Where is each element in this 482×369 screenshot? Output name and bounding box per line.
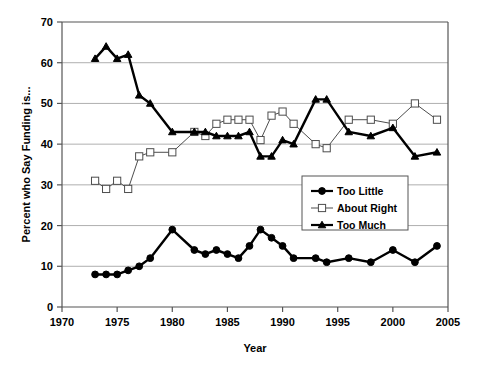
data-point-marker xyxy=(319,188,326,195)
y-tick-label: 30 xyxy=(41,179,53,191)
data-point-marker xyxy=(367,259,374,266)
y-tick-label: 20 xyxy=(41,220,53,232)
data-point-marker xyxy=(125,185,132,192)
data-point-marker xyxy=(323,145,330,152)
data-point-marker xyxy=(290,255,297,262)
y-axis-label: Percent who Say Funding is... xyxy=(20,87,32,243)
data-point-marker xyxy=(169,226,176,233)
x-tick-label: 1980 xyxy=(160,316,184,328)
data-point-marker xyxy=(235,116,242,123)
x-tick-label: 1975 xyxy=(105,316,129,328)
data-point-marker xyxy=(147,255,154,262)
data-point-marker xyxy=(246,116,253,123)
legend: Too LittleAbout RightToo Much xyxy=(302,176,408,231)
data-point-marker xyxy=(312,141,319,148)
y-tick-label: 40 xyxy=(41,138,53,150)
data-point-marker xyxy=(312,255,319,262)
data-point-marker xyxy=(213,120,220,127)
y-tick-label: 60 xyxy=(41,57,53,69)
data-point-marker xyxy=(103,185,110,192)
x-axis-label: Year xyxy=(243,342,267,354)
data-point-marker xyxy=(389,247,396,254)
data-point-marker xyxy=(147,149,154,156)
data-point-marker xyxy=(224,116,231,123)
x-tick-label: 1970 xyxy=(50,316,74,328)
y-tick-label: 0 xyxy=(47,301,53,313)
data-point-marker xyxy=(114,177,121,184)
legend-label: About Right xyxy=(337,202,398,214)
data-point-marker xyxy=(202,251,209,258)
legend-label: Too Little xyxy=(337,185,384,197)
data-point-marker xyxy=(246,243,253,250)
y-tick-label: 10 xyxy=(41,260,53,272)
y-tick-label: 50 xyxy=(41,97,53,109)
y-tick-label: 70 xyxy=(41,16,53,28)
data-point-marker xyxy=(114,271,121,278)
data-point-marker xyxy=(412,259,419,266)
x-tick-label: 1990 xyxy=(270,316,294,328)
data-point-marker xyxy=(257,136,264,143)
data-point-marker xyxy=(345,255,352,262)
data-point-marker xyxy=(169,149,176,156)
data-point-marker xyxy=(433,116,440,123)
data-point-marker xyxy=(279,243,286,250)
data-point-marker xyxy=(345,116,352,123)
x-tick-label: 2000 xyxy=(381,316,405,328)
data-point-marker xyxy=(224,251,231,258)
data-point-marker xyxy=(125,267,132,274)
data-point-marker xyxy=(191,247,198,254)
data-point-marker xyxy=(318,204,325,211)
data-point-marker xyxy=(279,108,286,115)
data-point-marker xyxy=(434,243,441,250)
data-point-marker xyxy=(235,255,242,262)
data-point-marker xyxy=(323,259,330,266)
data-point-marker xyxy=(290,120,297,127)
data-point-marker xyxy=(92,271,99,278)
legend-label: Too Much xyxy=(337,219,386,231)
data-point-marker xyxy=(257,226,264,233)
data-point-marker xyxy=(367,116,374,123)
funding-opinion-line-chart: 010203040506070 197019751980198519901995… xyxy=(0,0,482,369)
data-point-marker xyxy=(103,271,110,278)
data-point-marker xyxy=(268,112,275,119)
data-point-marker xyxy=(411,100,418,107)
data-point-marker xyxy=(136,263,143,270)
data-point-marker xyxy=(91,177,98,184)
data-point-marker xyxy=(136,153,143,160)
x-tick-label: 1985 xyxy=(215,316,239,328)
x-tick-label: 1995 xyxy=(325,316,349,328)
data-point-marker xyxy=(213,247,220,254)
data-point-marker xyxy=(268,234,275,241)
x-tick-label: 2005 xyxy=(436,316,460,328)
